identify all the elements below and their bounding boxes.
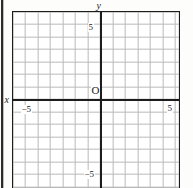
x-axis-tick-label-negative-5: −5 <box>21 105 32 114</box>
coordinate-grid-figure: y x 5 O −5 5 −5 <box>0 0 193 188</box>
y-axis-tick-label-5: 5 <box>88 23 94 32</box>
x-axis-line <box>12 99 180 101</box>
page-edge-shadow <box>3 0 4 188</box>
y-axis-label: y <box>96 1 101 11</box>
origin-label: O <box>91 85 100 96</box>
y-axis-tick-label-negative-5: −5 <box>84 170 95 179</box>
x-axis-label: x <box>4 95 9 105</box>
x-axis-tick-label-5: 5 <box>167 104 173 113</box>
